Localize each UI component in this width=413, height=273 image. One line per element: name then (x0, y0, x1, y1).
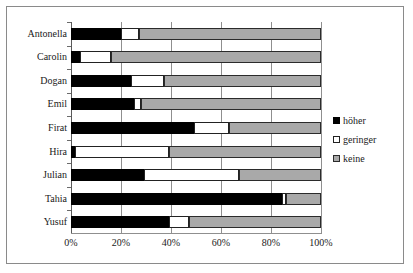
bar-row (71, 122, 321, 134)
x-axis-tick-label: 0% (64, 237, 77, 248)
bar-segment-geringer (144, 169, 239, 181)
bar-row (71, 51, 321, 63)
stacked-bar (71, 193, 321, 205)
bar-segment-höher (71, 75, 131, 87)
bar-segment-geringer (121, 28, 139, 40)
y-axis-tickmark (67, 210, 71, 211)
legend-item-höher: höher (333, 111, 399, 130)
bar-row (71, 169, 321, 181)
bar-segment-keine (229, 122, 322, 134)
y-axis-category-labels: AntonellaCarolinDoganEmilFiratHiraJulian… (7, 22, 67, 234)
y-axis-category-label: Yusuf (44, 217, 67, 227)
legend-item-label: höher (343, 116, 366, 126)
y-axis-tickmark (67, 116, 71, 117)
legend-item-geringer: geringer (333, 130, 399, 149)
x-axis-tick-label: 100% (309, 237, 332, 248)
y-axis-category-label: Antonella (28, 29, 67, 39)
stacked-bar (71, 122, 321, 134)
stacked-bar (71, 98, 321, 110)
bar-segment-keine (239, 169, 322, 181)
x-axis-tick-label: 60% (212, 237, 230, 248)
chart-frame: AntonellaCarolinDoganEmilFiratHiraJulian… (6, 6, 404, 264)
stacked-bar (71, 75, 321, 87)
bar-segment-geringer (134, 98, 142, 110)
bar-segment-keine (189, 216, 322, 228)
y-axis-category-label: Dogan (40, 76, 67, 86)
bar-segment-höher (71, 193, 282, 205)
bar-segment-keine (111, 51, 321, 63)
y-axis-category-label: Firat (48, 123, 67, 133)
bar-row (71, 75, 321, 87)
stacked-bar (71, 28, 321, 40)
black-square-icon (333, 117, 340, 124)
bar-segment-höher (71, 122, 194, 134)
y-axis-tickmark (67, 22, 71, 23)
bar-segment-geringer (80, 51, 111, 63)
bar-segment-höher (71, 169, 144, 181)
bar-segment-höher (71, 28, 121, 40)
bar-segment-keine (169, 146, 322, 158)
bar-segment-geringer (194, 122, 229, 134)
bar-row (71, 216, 321, 228)
y-axis-tickmark (67, 140, 71, 141)
white-square-icon (333, 136, 340, 143)
y-axis-tickmark (67, 163, 71, 164)
bar-segment-keine (139, 28, 322, 40)
chart-legend: höhergeringerkeine (333, 111, 399, 168)
bar-row (71, 28, 321, 40)
bar-segment-höher (71, 98, 134, 110)
y-axis-category-label: Emil (48, 99, 67, 109)
bar-segment-höher (71, 51, 80, 63)
y-axis-category-label: Tahia (45, 194, 67, 204)
y-axis-tickmark (67, 69, 71, 70)
legend-item-keine: keine (333, 149, 399, 168)
bar-segment-höher (71, 216, 169, 228)
x-axis-line (71, 233, 321, 234)
bar-segment-keine (164, 75, 322, 87)
x-axis-tick-label: 80% (262, 237, 280, 248)
stacked-bar (71, 51, 321, 63)
legend-item-label: keine (343, 154, 365, 164)
bar-row (71, 193, 321, 205)
bar-segment-keine (286, 193, 321, 205)
x-axis-tick-labels: 0%20%40%60%80%100% (71, 237, 321, 251)
stacked-bar (71, 169, 321, 181)
gray-square-icon (333, 155, 340, 162)
y-axis-tickmark (67, 93, 71, 94)
stacked-bar (71, 216, 321, 228)
stacked-bar (71, 146, 321, 158)
x-axis-tick-label: 40% (162, 237, 180, 248)
plot-area (71, 22, 321, 234)
y-axis-category-label: Hira (49, 147, 67, 157)
y-axis-category-label: Julian (43, 170, 67, 180)
x-axis-tick-label: 20% (112, 237, 130, 248)
bar-segment-geringer (75, 146, 169, 158)
bar-segment-geringer (169, 216, 189, 228)
y-axis-category-label: Carolin (37, 52, 67, 62)
y-axis-tickmark (67, 187, 71, 188)
gridline (321, 22, 322, 234)
bar-segment-geringer (131, 75, 164, 87)
bar-segment-keine (141, 98, 321, 110)
bar-row (71, 146, 321, 158)
bar-row (71, 98, 321, 110)
y-axis-tickmark (67, 46, 71, 47)
legend-item-label: geringer (343, 135, 376, 145)
